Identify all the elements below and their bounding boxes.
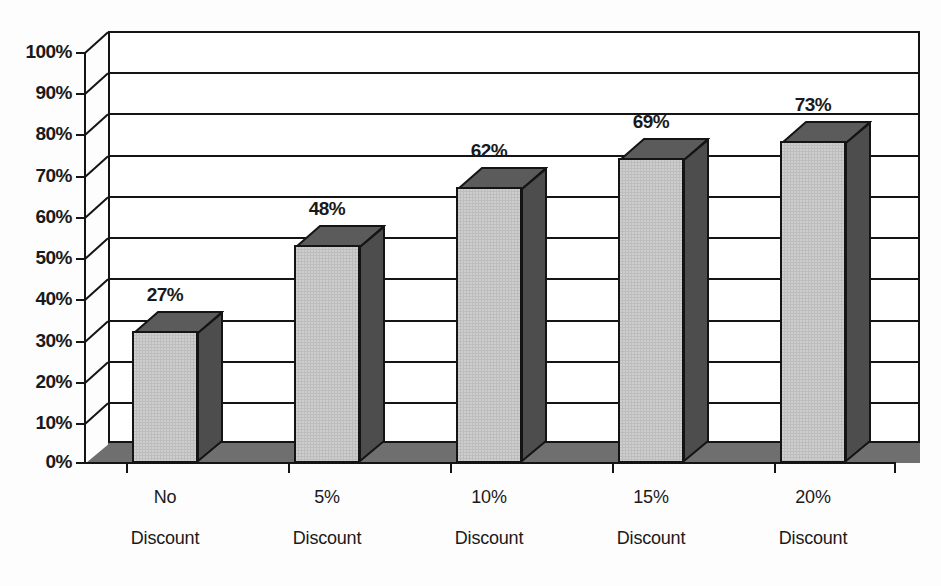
bar-1-side-face xyxy=(196,311,224,463)
bar-2-side-face xyxy=(358,225,386,463)
x-axis-category-1-line1: No xyxy=(105,488,225,506)
x-axis-category-5: 20% Discount xyxy=(753,488,873,547)
x-axis-category-1-line2: Discount xyxy=(105,529,225,547)
depth-line-60 xyxy=(84,196,109,218)
y-tick-50 xyxy=(76,258,85,260)
x-tick-4 xyxy=(612,464,614,473)
depth-line-70 xyxy=(84,155,109,177)
bar-2-front-face xyxy=(294,245,360,463)
x-axis-category-2-line1: 5% xyxy=(267,488,387,506)
y-axis-label-100: 100% xyxy=(0,42,72,61)
y-tick-70 xyxy=(76,176,85,178)
y-tick-30 xyxy=(76,341,85,343)
bar-3-side-face xyxy=(520,167,548,463)
y-axis-label-20: 20% xyxy=(0,372,72,391)
y-tick-40 xyxy=(76,299,85,301)
y-tick-90 xyxy=(76,93,85,95)
x-axis-category-3: 10% Discount xyxy=(429,488,549,547)
depth-line-40 xyxy=(84,278,109,300)
bar-2-value-label: 48% xyxy=(285,199,369,218)
depth-line-30 xyxy=(84,320,109,342)
x-tick-2 xyxy=(288,464,290,473)
y-axis-label-40: 40% xyxy=(0,289,72,308)
x-axis-category-4: 15% Discount xyxy=(591,488,711,547)
y-tick-0 xyxy=(76,462,85,464)
gridline-90 xyxy=(108,72,920,74)
y-axis-label-10: 10% xyxy=(0,413,72,432)
depth-line-80 xyxy=(84,113,109,135)
depth-line-10 xyxy=(84,402,109,424)
bar-3-value-label: 62% xyxy=(447,141,531,160)
bar-1-value-label: 27% xyxy=(123,285,207,304)
x-axis-category-4-line2: Discount xyxy=(591,529,711,547)
bar-5-side-face xyxy=(844,121,872,463)
x-axis-category-1: No Discount xyxy=(105,488,225,547)
depth-line-100 xyxy=(84,31,109,53)
y-axis-label-0: 0% xyxy=(0,452,72,471)
x-axis-category-4-line1: 15% xyxy=(591,488,711,506)
y-tick-100 xyxy=(76,52,85,54)
y-tick-10 xyxy=(76,423,85,425)
x-tick-6 xyxy=(894,464,896,473)
x-tick-3 xyxy=(450,464,452,473)
bar-3-front-face xyxy=(456,187,522,463)
y-axis-label-70: 70% xyxy=(0,166,72,185)
x-tick-5 xyxy=(774,464,776,473)
x-tick-1 xyxy=(126,464,128,473)
depth-line-20 xyxy=(84,361,109,383)
x-axis-category-3-line1: 10% xyxy=(429,488,549,506)
back-wall-right-edge xyxy=(918,31,920,443)
y-tick-80 xyxy=(76,134,85,136)
bar-5-front-face xyxy=(780,141,846,463)
y-tick-60 xyxy=(76,217,85,219)
bar-4-side-face xyxy=(682,138,710,463)
bar-5-value-label: 73% xyxy=(771,95,855,114)
depth-line-90 xyxy=(84,72,109,94)
y-axis-label-60: 60% xyxy=(0,207,72,226)
bar-chart: 100% 90% 80% 70% 60% 50% 40% 30% 20% 10%… xyxy=(0,0,941,586)
x-axis-category-5-line1: 20% xyxy=(753,488,873,506)
x-axis-category-2: 5% Discount xyxy=(267,488,387,547)
y-axis-label-90: 90% xyxy=(0,83,72,102)
x-axis-category-3-line2: Discount xyxy=(429,529,549,547)
y-axis-label-50: 50% xyxy=(0,248,72,267)
y-axis-label-80: 80% xyxy=(0,124,72,143)
floor-right-wedge xyxy=(894,441,924,465)
x-axis-category-2-line2: Discount xyxy=(267,529,387,547)
x-axis-category-5-line2: Discount xyxy=(753,529,873,547)
bar-4-front-face xyxy=(618,158,684,463)
y-tick-20 xyxy=(76,382,85,384)
bar-1-front-face xyxy=(132,331,198,463)
y-axis-label-30: 30% xyxy=(0,331,72,350)
depth-line-50 xyxy=(84,237,109,259)
bar-4-value-label: 69% xyxy=(609,112,693,131)
